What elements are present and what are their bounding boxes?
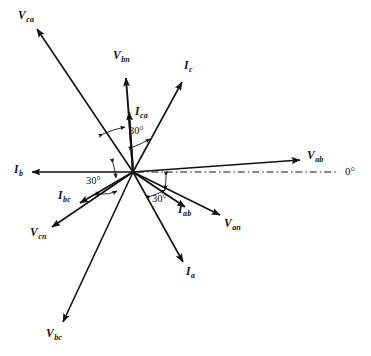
phasor-label-van-symbol: V bbox=[224, 217, 232, 229]
phasor-label-vbc: Vbc bbox=[46, 328, 62, 340]
phasor-label-iab-symbol: I bbox=[178, 203, 183, 215]
angle-label-left-30: 30° bbox=[86, 176, 101, 187]
angle-arc-ib-ibc bbox=[113, 163, 116, 178]
phasor-label-ic-symbol: I bbox=[184, 59, 189, 71]
zero-degree-axis-label: 0° bbox=[345, 166, 355, 177]
phasor-label-vca-symbol: V bbox=[18, 9, 26, 21]
phasor-vector-van bbox=[133, 172, 220, 215]
phasor-label-vbn-symbol: V bbox=[113, 49, 121, 61]
phasor-vector-ia bbox=[133, 172, 183, 262]
phasor-label-iab-subscript: ab bbox=[183, 209, 191, 218]
phasor-label-van-subscript: an bbox=[232, 223, 241, 232]
phasor-diagram-figure: Vab Van Vbc Vbn Vca Vcn Ia Iab Ib Ibc Ic… bbox=[0, 0, 371, 356]
phasor-label-ica: Ica bbox=[135, 106, 148, 118]
phasor-label-vca-subscript: ca bbox=[26, 15, 34, 24]
phasor-label-vbn: Vbn bbox=[113, 50, 130, 62]
phasor-label-ibc-symbol: I bbox=[58, 189, 63, 201]
phasor-label-ibc: Ibc bbox=[58, 190, 71, 202]
phasor-label-iab: Iab bbox=[178, 204, 191, 216]
angle-label-lower-right-30: 30° bbox=[152, 194, 167, 205]
phasor-label-vab-symbol: V bbox=[307, 149, 315, 161]
phasor-vector-ica bbox=[129, 112, 133, 172]
phasor-label-ia-symbol: I bbox=[186, 265, 191, 277]
phasor-label-vcn-subscript: cn bbox=[38, 232, 46, 241]
phasor-label-ib-subscript: b bbox=[19, 169, 23, 178]
angle-label-top-30: 30° bbox=[129, 126, 144, 137]
angle-arc-vca-vbn bbox=[103, 127, 125, 134]
phasor-vector-canvas bbox=[0, 0, 371, 356]
phasor-label-van: Van bbox=[224, 218, 241, 230]
phasor-label-ic: Ic bbox=[184, 60, 192, 72]
phasor-label-vab: Vab bbox=[307, 150, 323, 162]
phasor-label-vbc-symbol: V bbox=[46, 327, 54, 339]
phasor-label-vca: Vca bbox=[18, 10, 34, 22]
phasor-label-vbc-subscript: bc bbox=[54, 333, 62, 342]
phasor-label-ica-symbol: I bbox=[135, 105, 140, 117]
phasor-label-ic-subscript: c bbox=[189, 65, 193, 74]
phasor-label-vab-subscript: ab bbox=[315, 155, 323, 164]
phasor-label-ica-subscript: ca bbox=[140, 111, 148, 120]
phasor-vector-vbc bbox=[63, 172, 133, 322]
phasor-label-ib-symbol: I bbox=[14, 163, 19, 175]
phasor-label-ia: Ia bbox=[186, 266, 195, 278]
phasor-label-vbn-subscript: bn bbox=[121, 55, 130, 64]
phasor-label-vcn: Vcn bbox=[30, 227, 46, 239]
phasor-label-ibc-subscript: bc bbox=[63, 195, 71, 204]
phasor-vector-vab bbox=[133, 160, 300, 172]
phasor-label-vcn-symbol: V bbox=[30, 226, 38, 238]
phasor-label-ib: Ib bbox=[14, 164, 23, 176]
phasor-label-ia-subscript: a bbox=[191, 271, 195, 280]
